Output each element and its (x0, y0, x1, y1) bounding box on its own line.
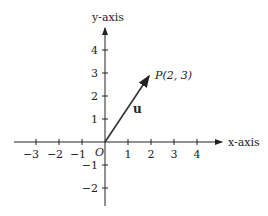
svg-text:4: 4 (91, 44, 98, 57)
svg-text:−3: −3 (23, 148, 39, 161)
svg-text:−2: −2 (47, 148, 63, 161)
svg-text:2: 2 (91, 90, 98, 103)
svg-text:1: 1 (91, 113, 98, 126)
y-tick-labels: 4 3 2 1 −1 −2 (82, 44, 98, 195)
x-tick-labels: −3 −2 −1 1 2 3 4 (23, 148, 201, 161)
svg-text:3: 3 (91, 67, 98, 80)
svg-text:−2: −2 (82, 182, 98, 195)
point-label: P(2, 3) (154, 69, 192, 82)
origin-label: O (95, 146, 104, 159)
svg-text:3: 3 (171, 148, 178, 161)
svg-text:1: 1 (125, 148, 132, 161)
svg-text:4: 4 (194, 148, 201, 161)
coordinate-diagram: −3 −2 −1 1 2 3 4 4 3 2 1 −1 −2 O y-axis … (0, 0, 268, 216)
vector-u (105, 76, 149, 142)
y-axis-label: y-axis (91, 11, 124, 24)
x-axis-label: x-axis (228, 136, 260, 149)
vector-label: u (133, 102, 142, 116)
svg-text:−1: −1 (82, 159, 98, 172)
svg-text:2: 2 (148, 148, 155, 161)
